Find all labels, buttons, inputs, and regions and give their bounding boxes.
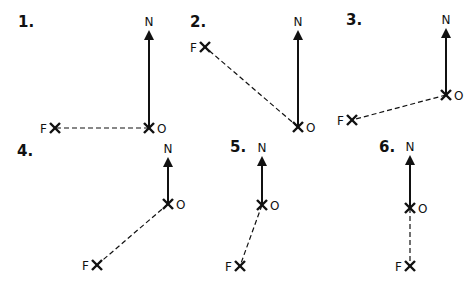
north-label: N: [145, 15, 154, 29]
diagram-number: 4.: [17, 142, 33, 160]
far-point-cross-icon: [200, 42, 210, 52]
arrowhead-icon: [293, 30, 303, 40]
far-label: F: [395, 260, 402, 274]
compass-diagrams-figure: 1.NOF2.NOF3.NOF4.NOF5.NOF6.NOF: [0, 0, 476, 288]
diagram-5: 5.NOF: [225, 138, 279, 274]
diagram-number: 1.: [18, 13, 34, 31]
diagram-number: 2.: [190, 13, 206, 31]
diagram-4: 4.NOF: [17, 142, 185, 273]
arrowhead-icon: [163, 157, 173, 167]
origin-label: O: [454, 89, 463, 103]
north-label: N: [164, 142, 173, 156]
dashed-line-of: [205, 47, 298, 127]
diagram-number: 3.: [346, 11, 362, 29]
north-label: N: [294, 15, 303, 29]
arrowhead-icon: [405, 155, 415, 165]
far-label: F: [190, 41, 197, 55]
diagram-number: 6.: [379, 138, 395, 156]
diagram-number: 5.: [230, 138, 246, 156]
dashed-line-of: [240, 205, 262, 266]
origin-label: O: [157, 122, 166, 136]
far-label: F: [337, 114, 344, 128]
origin-label: O: [306, 121, 315, 135]
far-point-cross-icon: [92, 260, 102, 270]
arrowhead-icon: [144, 30, 154, 40]
far-point-cross-icon: [405, 261, 415, 271]
origin-label: O: [270, 199, 279, 213]
diagram-3: 3.NOF: [337, 11, 463, 128]
far-point-cross-icon: [347, 115, 357, 125]
dashed-line-of: [352, 95, 446, 120]
arrowhead-icon: [257, 156, 267, 166]
north-label: N: [406, 140, 415, 154]
origin-label: O: [176, 198, 185, 212]
diagram-1: 1.NOF: [18, 13, 166, 136]
diagram-2: 2.NOF: [190, 13, 315, 135]
far-label: F: [82, 259, 89, 273]
far-label: F: [225, 260, 232, 274]
north-label: N: [442, 13, 451, 27]
origin-label: O: [418, 202, 427, 216]
arrowhead-icon: [441, 28, 451, 38]
north-label: N: [258, 141, 267, 155]
dashed-line-of: [97, 204, 168, 265]
far-point-cross-icon: [235, 261, 245, 271]
diagram-6: 6.NOF: [379, 138, 427, 274]
far-label: F: [40, 122, 47, 136]
